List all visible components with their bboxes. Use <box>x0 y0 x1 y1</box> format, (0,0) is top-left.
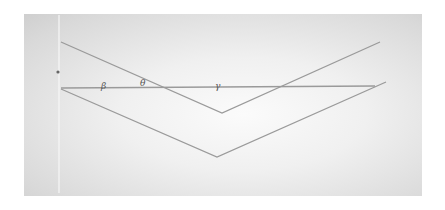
label-gamma: γ <box>215 81 221 91</box>
lower-v-line <box>61 82 386 157</box>
geometry-diagram: β θ γ <box>0 0 445 210</box>
upper-v-line <box>61 42 380 113</box>
label-theta: θ <box>140 78 146 88</box>
point-marker <box>56 70 59 73</box>
label-beta: β <box>100 81 106 91</box>
